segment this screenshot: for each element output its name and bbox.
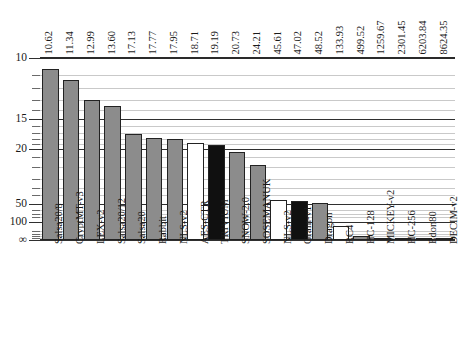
bar-chart: 10152050100∞10.62Salsa20/811.34CryptMT-v… (0, 0, 463, 342)
bar-value-label: 18.71 (189, 30, 200, 54)
y-axis-tick-minor (32, 88, 40, 89)
y-axis-tick-minor (32, 75, 40, 76)
y-axis-tick-minor (32, 214, 40, 215)
y-axis-tick-major (29, 58, 40, 59)
bar-value-label: 11.34 (65, 31, 76, 54)
y-axis-tick-minor (32, 139, 40, 140)
gridline-minor (40, 126, 455, 127)
bar-value-label: 20.73 (231, 30, 242, 54)
bar-value-label: 8624.35 (438, 20, 449, 54)
y-axis-tick-minor (32, 100, 40, 101)
gridline-major (40, 149, 455, 150)
gridline-minor (40, 144, 455, 145)
y-axis-tick-minor (32, 144, 40, 145)
y-axis-label: 50 (16, 198, 28, 210)
y-axis-tick-major (29, 222, 40, 223)
gridline-minor (40, 167, 455, 168)
bar-value-label: 17.77 (148, 30, 159, 54)
bar-value-label: 17.13 (127, 30, 138, 54)
y-axis-tick-minor (32, 195, 40, 196)
bar-value-label: 133.93 (334, 25, 345, 54)
y-axis-tick-minor (32, 234, 40, 235)
y-axis-tick-major (29, 240, 40, 241)
y-axis-tick-minor (32, 157, 40, 158)
bar-value-label: 24.21 (251, 30, 262, 54)
gridline-minor (40, 133, 455, 134)
gridline-minor (40, 157, 455, 158)
x-axis-label: DECIM-v2 (449, 196, 460, 244)
bar-value-label: 10.62 (44, 30, 55, 54)
y-axis-tick-major (29, 119, 40, 120)
y-axis-tick-minor (32, 179, 40, 180)
gridline-minor (40, 179, 455, 180)
y-axis-tick-minor (32, 167, 40, 168)
gridline-minor (40, 88, 455, 89)
y-axis-label: ∞ (19, 234, 27, 246)
gridline-minor (40, 139, 455, 140)
gridline-minor (40, 110, 455, 111)
y-axis-label: 100 (10, 216, 27, 228)
y-axis-label: 10 (16, 52, 28, 64)
gridline-minor (40, 100, 455, 101)
gridline-major (40, 119, 455, 120)
bar-value-label: 47.02 (293, 30, 304, 54)
bar-value-label: 6203.84 (417, 20, 428, 54)
y-axis-tick-minor (32, 231, 40, 232)
y-axis-tick-major (29, 204, 40, 205)
y-axis-label: 15 (16, 113, 28, 125)
y-axis-tick-minor (32, 133, 40, 134)
y-axis-label: 20 (16, 143, 28, 155)
x-axis-label: RC4 (345, 225, 356, 244)
bar-value-label: 48.52 (314, 30, 325, 54)
bar-value-label: 1259.67 (376, 20, 387, 54)
bar-value-label: 13.60 (106, 30, 117, 54)
bar-value-label: 2301.45 (397, 20, 408, 54)
y-axis-tick-major (29, 149, 40, 150)
y-axis-tick-minor (32, 210, 40, 211)
gridline-minor (40, 75, 455, 76)
bar-value-label: 19.19 (210, 30, 221, 54)
plot-area: 10152050100∞10.62Salsa20/811.34CryptMT-v… (40, 58, 455, 240)
bar-value-label: 45.61 (272, 30, 283, 54)
x-axis-label: MICKEY-v2 (386, 190, 397, 244)
y-axis-tick-minor (32, 110, 40, 111)
bar-value-label: 17.95 (168, 30, 179, 54)
bar-value-label: 12.99 (85, 30, 96, 54)
bar-value-label: 499.52 (355, 25, 366, 54)
y-axis-tick-minor (32, 188, 40, 189)
y-axis-tick-minor (32, 126, 40, 127)
y-axis-tick-minor (32, 217, 40, 218)
